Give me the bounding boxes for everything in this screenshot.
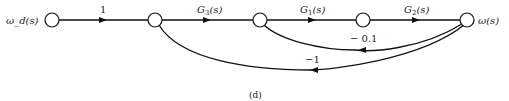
arrow-icon [308,17,316,23]
gain-label-g1: G1(s) [300,4,326,17]
arrow-icon [412,17,420,23]
node-3 [253,13,267,27]
node-output [460,13,474,27]
input-label: ω_d(s) [6,15,39,27]
branch-n1-n2 [59,17,148,23]
gain-label-1: 1 [100,4,106,15]
output-label: ω(s) [478,15,499,26]
arrow-icon [358,47,366,53]
signal-flow-graph: ω_d(s) ω(s) 1 G3(s) G1(s) G2(s) − 0.1 −1… [0,0,509,101]
gain-label-g3: G3(s) [197,4,223,17]
branch-n3-n4 [267,17,356,23]
figure-caption: (d) [249,90,262,100]
arrow-icon [310,67,318,73]
branch-n4-n5 [370,17,460,23]
gain-label-minus-1: −1 [305,54,320,65]
node-2 [148,13,162,27]
arrow-icon [203,17,211,23]
gain-label-g2: G2(s) [404,4,430,17]
node-input [45,13,59,27]
branch-n5-n2-feedback [159,25,464,73]
branch-n2-n3 [162,17,253,23]
node-4 [356,13,370,27]
arrow-icon [99,17,107,23]
gain-label-minus-0.1: − 0.1 [350,33,377,44]
